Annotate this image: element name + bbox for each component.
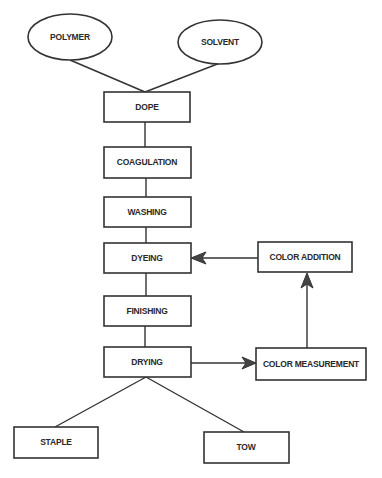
- node-label: COLOR MEASUREMENT: [263, 359, 360, 369]
- node-label: WASHING: [127, 207, 167, 217]
- node-washing: WASHING: [104, 197, 191, 227]
- node-label: DYEING: [131, 253, 163, 263]
- edge-solvent-dope: [145, 63, 220, 92]
- node-color-addition: COLOR ADDITION: [258, 242, 352, 272]
- node-label: COAGULATION: [117, 157, 178, 167]
- node-tow: TOW: [204, 432, 289, 463]
- node-label: POLYMER: [50, 32, 90, 42]
- node-label: STAPLE: [40, 437, 72, 447]
- node-drying: DRYING: [104, 347, 191, 377]
- node-polymer: POLYMER: [28, 14, 112, 60]
- node-dyeing: DYEING: [104, 243, 191, 273]
- edge-drying-tow: [146, 377, 244, 432]
- node-coagulation: COAGULATION: [104, 147, 191, 178]
- node-dope: DOPE: [104, 92, 190, 122]
- node-label: DRYING: [131, 357, 163, 367]
- node-color-measurement: COLOR MEASUREMENT: [256, 348, 366, 380]
- node-finishing: FINISHING: [104, 296, 191, 326]
- node-label: TOW: [236, 442, 256, 452]
- node-label: DOPE: [135, 102, 159, 112]
- node-staple: STAPLE: [14, 427, 98, 458]
- node-label: COLOR ADDITION: [269, 252, 340, 262]
- node-label: FINISHING: [126, 306, 168, 316]
- edge-polymer-dope: [70, 60, 145, 92]
- node-solvent: SOLVENT: [178, 20, 262, 64]
- node-label: SOLVENT: [201, 37, 240, 47]
- fiber-process-flow-diagram: POLYMER SOLVENT DOPE COAGULATION WASHING…: [0, 0, 382, 478]
- edge-drying-staple: [55, 377, 146, 427]
